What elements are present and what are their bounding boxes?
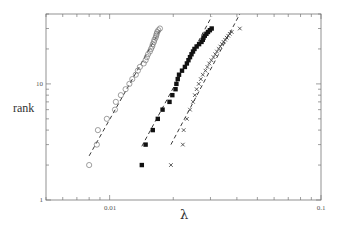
cross-marker bbox=[210, 58, 214, 62]
cross-marker bbox=[206, 65, 210, 69]
cross-marker bbox=[201, 73, 205, 77]
cross-marker bbox=[182, 128, 186, 132]
square-marker bbox=[160, 107, 164, 111]
cross-marker bbox=[193, 93, 197, 97]
plot-border bbox=[46, 14, 321, 200]
cross-marker bbox=[185, 117, 189, 121]
circle-marker bbox=[113, 99, 118, 104]
square-marker bbox=[140, 163, 144, 167]
cross-marker bbox=[169, 163, 173, 167]
circle-marker bbox=[118, 93, 123, 98]
square-marker bbox=[209, 26, 213, 30]
fit-line-2 bbox=[142, 17, 212, 147]
cross-marker bbox=[199, 77, 203, 81]
cross-marker bbox=[181, 143, 185, 147]
square-marker bbox=[173, 87, 177, 91]
data-points bbox=[87, 26, 242, 168]
cross-marker bbox=[197, 82, 201, 86]
fit-lines bbox=[89, 14, 240, 156]
y-tick-label-10: 10 bbox=[36, 80, 44, 88]
x-tick-label-0.1: 0.1 bbox=[317, 204, 326, 212]
circle-marker bbox=[127, 81, 132, 86]
circle-marker bbox=[87, 162, 92, 167]
square-marker bbox=[170, 93, 174, 97]
cross-marker bbox=[188, 108, 192, 112]
cross-marker bbox=[238, 27, 242, 31]
square-marker bbox=[177, 73, 181, 77]
square-marker bbox=[156, 117, 160, 121]
cross-marker bbox=[195, 87, 199, 91]
square-marker bbox=[143, 142, 147, 146]
rank-vs-lambda-chart: 0.01 0.1 1 10 rank λ bbox=[0, 0, 339, 230]
axis-ticks bbox=[46, 14, 321, 200]
cross-marker bbox=[207, 62, 211, 66]
square-marker bbox=[167, 100, 171, 104]
x-axis-label: λ bbox=[180, 207, 188, 222]
square-marker bbox=[176, 77, 180, 81]
y-axis-label: rank bbox=[13, 101, 34, 115]
x-tick-label-0.01: 0.01 bbox=[104, 204, 117, 212]
circle-marker bbox=[133, 72, 138, 77]
plot-frame bbox=[46, 14, 321, 200]
circle-marker bbox=[123, 87, 128, 92]
circle-marker bbox=[130, 76, 135, 81]
y-tick-label-1: 1 bbox=[40, 196, 44, 204]
cross-marker bbox=[191, 100, 195, 104]
square-marker bbox=[174, 82, 178, 86]
circle-marker bbox=[95, 128, 100, 133]
cross-marker bbox=[204, 69, 208, 73]
square-marker bbox=[151, 128, 155, 132]
circle-marker bbox=[104, 116, 109, 121]
